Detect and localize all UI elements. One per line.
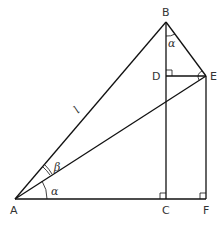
angle-label-alpha-a: α [51,185,59,198]
geometry-diagram: B D E A C F l α β α [0,0,223,226]
point-label-d: D [152,70,160,83]
right-angle-marker-d [166,70,172,76]
segment-ab [15,22,166,199]
side-label-ab: l [71,104,83,116]
point-label-a: A [10,204,18,217]
angle-label-beta-a: β [53,161,60,174]
point-label-c: C [162,204,170,217]
segment-ae [15,76,206,199]
angle-arc-beta-a-1 [43,167,50,175]
angle-label-alpha-b: α [168,37,176,50]
right-angle-marker-c [160,193,166,199]
right-angle-marker-f [200,193,206,199]
point-label-e: E [210,70,217,83]
point-label-f: F [203,204,209,217]
angle-arc-alpha-b [166,34,175,36]
angle-arc-alpha-a [42,181,47,199]
point-label-b: B [162,6,170,19]
